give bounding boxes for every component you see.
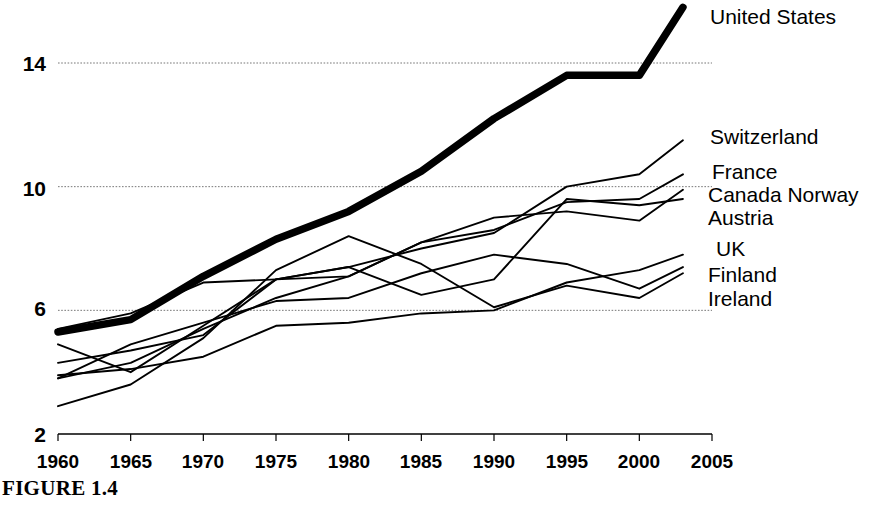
- series-label-ireland: Ireland: [708, 288, 772, 309]
- series-line-united-states: [58, 7, 683, 332]
- x-axis-tick-label-1965: 1965: [91, 452, 171, 471]
- x-axis-tick-label-2005: 2005: [672, 452, 752, 471]
- x-axis-tick-label-1990: 1990: [454, 452, 534, 471]
- series-label-uk: UK: [716, 238, 745, 259]
- series-label-austria: Austria: [708, 207, 773, 228]
- gridlines: [58, 63, 712, 310]
- series-label-united-states: United States: [710, 6, 836, 27]
- y-axis-tick-label-6: 6: [0, 298, 46, 319]
- series-label-france: France: [712, 161, 777, 182]
- x-axis-tick-label-1985: 1985: [381, 452, 461, 471]
- x-axis-tick-label-1975: 1975: [236, 452, 316, 471]
- x-axis-tick-label-1995: 1995: [527, 452, 607, 471]
- series-label-finland: Finland: [708, 264, 777, 285]
- series-label-canada-norway: Canada Norway: [708, 184, 859, 205]
- line-chart: [0, 0, 890, 508]
- figure-container: 14 10 6 2 1960 1965 1970 1975 1980 1985 …: [0, 0, 890, 508]
- x-axis-tick-label-1960: 1960: [18, 452, 98, 471]
- x-axis-tick-label-1970: 1970: [163, 452, 243, 471]
- figure-caption: FIGURE 1.4: [2, 478, 118, 499]
- x-axis-tick-label-1980: 1980: [309, 452, 389, 471]
- x-axis-tick-label-2000: 2000: [599, 452, 679, 471]
- series-label-switzerland: Switzerland: [710, 126, 819, 147]
- axis-ticks: [58, 434, 712, 441]
- y-axis-tick-label-2: 2: [0, 424, 46, 445]
- y-axis-tick-label-10: 10: [0, 178, 46, 199]
- series-lines: [58, 7, 683, 406]
- series-line-uk: [58, 255, 683, 376]
- y-axis-tick-label-14: 14: [0, 53, 46, 74]
